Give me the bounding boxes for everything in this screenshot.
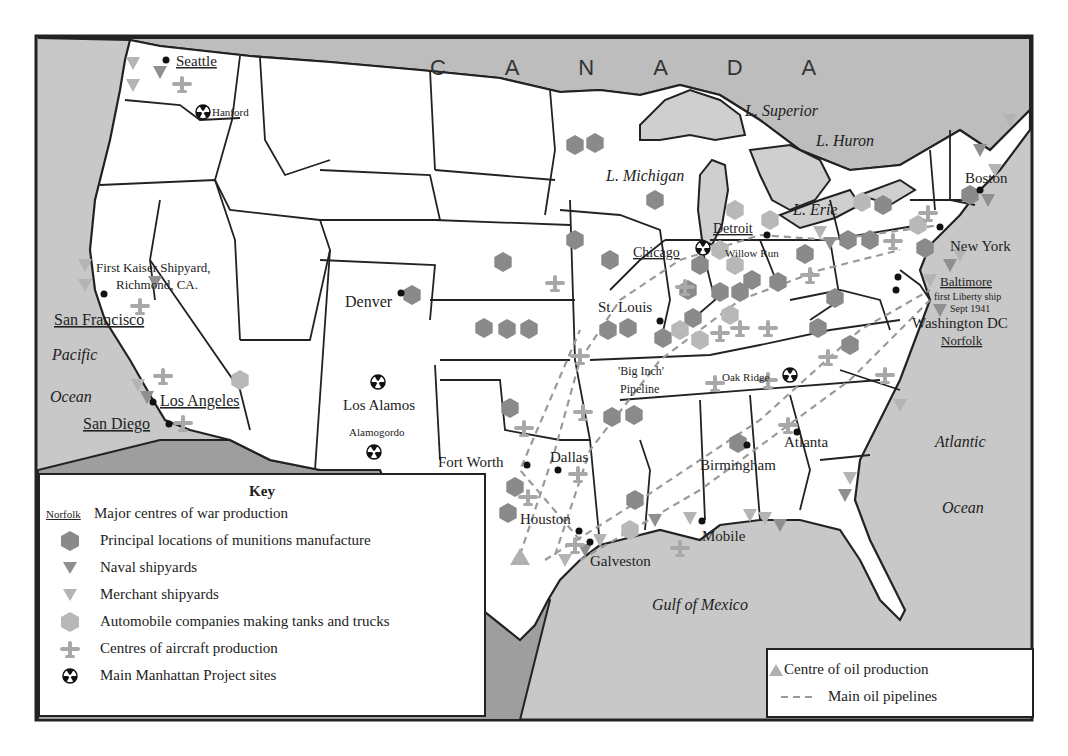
denver-label: Denver xyxy=(345,293,393,310)
new-york-label: New York xyxy=(950,238,1011,254)
airplane-icon xyxy=(40,639,100,659)
triangle-up-icon xyxy=(768,663,784,677)
hexagon-icon xyxy=(40,530,100,552)
key-label: Principal locations of munitions manufac… xyxy=(100,532,371,549)
boston-label: Boston xyxy=(965,170,1008,186)
key-label: Centre of oil production xyxy=(784,661,929,678)
key-label: Naval shipyards xyxy=(100,559,197,576)
lake-huron-label: L. Huron xyxy=(815,132,874,149)
lake-michigan-label: L. Michigan xyxy=(605,167,684,185)
triangle-down-icon xyxy=(40,588,100,602)
seattle-label: Seattle xyxy=(176,53,217,69)
map-key: Key Norfolk Major centres of war product… xyxy=(38,473,486,717)
key-row-pipeline: Main oil pipelines xyxy=(768,683,1032,710)
dashed-line-icon xyxy=(768,694,828,700)
hanford-label: Hanford xyxy=(212,106,249,118)
mobile-label: Mobile xyxy=(702,528,746,544)
key-label: Centres of aircraft production xyxy=(100,640,278,657)
key-label: Main oil pipelines xyxy=(828,688,937,705)
los-alamos-label: Los Alamos xyxy=(343,397,415,413)
canada-label: C A N A D A xyxy=(430,55,843,80)
gulf-label: Gulf of Mexico xyxy=(652,596,748,614)
key-row-oil: Centre of oil production xyxy=(768,656,1032,683)
oil-key: Centre of oil production Main oil pipeli… xyxy=(766,648,1034,718)
atlantic-label: Atlantic xyxy=(934,433,986,450)
key-row-major-centres: Norfolk Major centres of war production xyxy=(40,500,484,527)
key-row-merchant: Merchant shipyards xyxy=(40,581,484,608)
dallas-label: Dallas xyxy=(550,449,588,465)
radiation-icon xyxy=(40,667,100,685)
major-centre-symbol: Norfolk xyxy=(40,508,94,520)
big-inch-label-1: 'Big Inch' xyxy=(618,364,664,378)
key-title: Key xyxy=(40,483,484,500)
norfolk-label: Norfolk xyxy=(941,333,983,348)
galveston-label: Galveston xyxy=(590,553,651,569)
pacific-ocean-label: Ocean xyxy=(50,388,92,405)
washington-label: Washington DC xyxy=(912,315,1008,331)
triangle-down-icon xyxy=(40,561,100,575)
atlanta-label: Atlanta xyxy=(784,434,828,450)
key-label: Merchant shipyards xyxy=(100,586,219,603)
liberty-ship-label-2: Sept 1941 xyxy=(950,303,990,314)
key-row-munitions: Principal locations of munitions manufac… xyxy=(40,527,484,554)
houston-label: Houston xyxy=(520,511,571,527)
chicago-label: Chicago xyxy=(633,245,680,260)
san-francisco-label: San Francisco xyxy=(54,311,144,328)
baltimore-label: Baltimore xyxy=(940,274,992,289)
pacific-label: Pacific xyxy=(51,346,97,364)
kaiser-label-2: Richmond, CA. xyxy=(116,277,198,292)
liberty-ship-label-1: first Liberty ship xyxy=(934,291,1001,302)
los-angeles-label: Los Angeles xyxy=(160,392,240,410)
kaiser-label-1: First Kaiser Shipyard, xyxy=(96,260,210,275)
detroit-label: Detroit xyxy=(713,221,753,236)
key-label: Major centres of war production xyxy=(94,505,288,522)
st-louis-label: St. Louis xyxy=(598,299,652,315)
san-diego-label: San Diego xyxy=(83,415,150,433)
lake-erie-label: L. Erie xyxy=(792,201,837,218)
alamogordo-label: Alamogordo xyxy=(349,426,405,438)
key-label: Main Manhattan Project sites xyxy=(100,667,276,684)
birmingham-label: Birmingham xyxy=(700,457,776,473)
key-row-automobile: Automobile companies making tanks and tr… xyxy=(40,608,484,635)
key-row-naval: Naval shipyards xyxy=(40,554,484,581)
lake-superior-label: L. Superior xyxy=(744,102,819,120)
hexagon-icon xyxy=(40,611,100,633)
oak-ridge-label: Oak Ridge xyxy=(722,371,769,383)
key-row-manhattan: Main Manhattan Project sites xyxy=(40,662,484,689)
fort-worth-label: Fort Worth xyxy=(438,454,504,470)
big-inch-label-2: Pipeline xyxy=(620,382,659,396)
key-label: Automobile companies making tanks and tr… xyxy=(100,613,390,630)
key-row-aircraft: Centres of aircraft production xyxy=(40,635,484,662)
atlantic-ocean-label: Ocean xyxy=(942,499,984,516)
willow-run-label: Willow Run xyxy=(725,247,779,259)
